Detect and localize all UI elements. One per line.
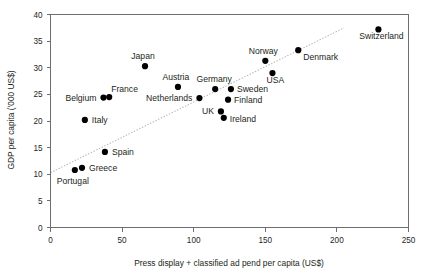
data-point-greece — [79, 165, 85, 171]
data-point-finland — [225, 97, 231, 103]
data-points: PortugalGreeceSpainItalyBelgiumFranceJap… — [57, 26, 404, 186]
data-point-norway — [262, 58, 268, 64]
data-point-label-austria: Austria — [163, 72, 190, 82]
data-point-label-france: France — [111, 84, 138, 94]
x-axis-title: Press display + classified ad pend per c… — [134, 258, 324, 268]
data-point-uk — [218, 108, 224, 114]
x-tick-label: 100 — [187, 236, 201, 245]
y-axis-ticks: 0510152025303540 — [33, 11, 50, 233]
x-axis-ticks: 050100150200250 — [48, 228, 416, 245]
y-tick-label: 20 — [33, 117, 43, 126]
data-point-denmark — [295, 47, 301, 53]
data-point-label-denmark: Denmark — [303, 52, 339, 62]
data-point-netherlands — [196, 95, 202, 101]
data-point-ireland — [221, 115, 227, 121]
plot-svg: 050100150200250 0510152025303540 Portuga… — [0, 0, 436, 279]
y-tick-label: 35 — [33, 37, 43, 46]
data-point-label-germany: Germany — [197, 74, 233, 84]
data-point-label-italy: Italy — [92, 115, 108, 125]
data-point-label-spain: Spain — [112, 147, 134, 157]
data-point-germany — [212, 86, 218, 92]
data-point-sweden — [228, 86, 234, 92]
data-point-label-belgium: Belgium — [65, 93, 96, 103]
data-point-italy — [82, 117, 88, 123]
y-tick-label: 15 — [33, 144, 43, 153]
x-tick-label: 250 — [402, 236, 416, 245]
data-point-label-switzerland: Switzerland — [359, 31, 404, 41]
data-point-label-greece: Greece — [89, 163, 117, 173]
x-tick-label: 50 — [118, 236, 128, 245]
y-tick-label: 30 — [33, 64, 43, 73]
data-point-label-usa: USA — [267, 75, 285, 85]
data-point-label-finland: Finland — [234, 95, 262, 105]
data-point-spain — [102, 149, 108, 155]
data-point-label-portugal: Portugal — [57, 176, 89, 186]
x-tick-label: 0 — [48, 236, 53, 245]
y-tick-label: 10 — [33, 170, 43, 179]
y-tick-label: 25 — [33, 90, 43, 99]
y-tick-label: 0 — [38, 224, 43, 233]
x-tick-label: 150 — [258, 236, 272, 245]
y-axis-title: GDP per capita ('000 US$) — [6, 70, 16, 169]
data-point-label-norway: Norway — [249, 46, 279, 56]
data-point-portugal — [72, 167, 78, 173]
data-point-label-uk: UK — [202, 106, 214, 116]
x-tick-label: 200 — [330, 236, 344, 245]
data-point-belgium — [100, 94, 106, 100]
data-point-label-netherlands: Netherlands — [146, 93, 192, 103]
scatter-chart: 050100150200250 0510152025303540 Portuga… — [0, 0, 436, 279]
y-tick-label: 40 — [33, 11, 43, 20]
data-point-france — [106, 94, 112, 100]
data-point-label-ireland: Ireland — [230, 114, 256, 124]
data-point-label-japan: Japan — [131, 51, 155, 61]
y-tick-label: 5 — [38, 197, 43, 206]
data-point-austria — [175, 84, 181, 90]
data-point-japan — [142, 63, 148, 69]
data-point-label-sweden: Sweden — [237, 84, 268, 94]
